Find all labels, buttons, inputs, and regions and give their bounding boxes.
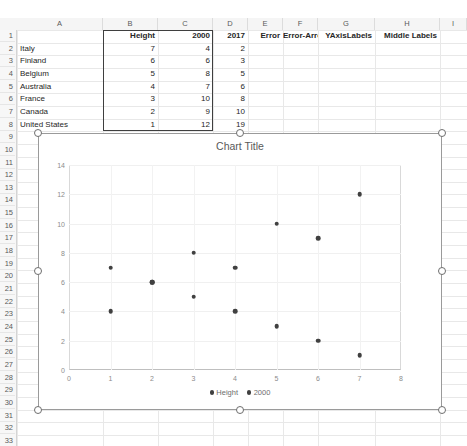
resize-handle-bottom-left[interactable] — [34, 406, 42, 414]
cell-d6-2017[interactable]: 8 — [213, 93, 248, 105]
row-header-31[interactable]: 31 — [0, 410, 15, 422]
row-header-30[interactable]: 30 — [0, 397, 15, 409]
row-header-5[interactable]: 5 — [0, 81, 15, 93]
row-header-21[interactable]: 21 — [0, 283, 15, 295]
chart-data-point[interactable] — [316, 338, 321, 343]
chart-data-point[interactable] — [191, 294, 196, 299]
row-header-22[interactable]: 22 — [0, 296, 15, 308]
chart-data-point[interactable] — [233, 309, 238, 314]
chart-title[interactable]: Chart Title — [38, 140, 442, 152]
resize-handle-top-right[interactable] — [438, 129, 446, 137]
row-header-24[interactable]: 24 — [0, 321, 15, 333]
row-header-23[interactable]: 23 — [0, 308, 15, 320]
row-header-7[interactable]: 7 — [0, 106, 15, 118]
chart-object[interactable]: Chart Title 02468101214012345678 Height2… — [38, 133, 442, 410]
cell-d4-2017[interactable]: 5 — [213, 68, 248, 80]
cell-a7-country[interactable]: Canada — [17, 106, 103, 118]
row-header-15[interactable]: 15 — [0, 207, 15, 219]
column-header-c[interactable]: C — [158, 18, 213, 30]
cell-a3-country[interactable]: Finland — [17, 55, 103, 67]
chart-data-point[interactable] — [357, 192, 362, 197]
row-header-29[interactable]: 29 — [0, 384, 15, 396]
chart-data-point[interactable] — [150, 280, 155, 285]
chart-data-point[interactable] — [274, 324, 279, 329]
cell-c4-2000[interactable]: 8 — [158, 68, 213, 80]
cell-a6-country[interactable]: France — [17, 93, 103, 105]
column-header-b[interactable]: B — [103, 18, 158, 30]
cell-d3-2017[interactable]: 3 — [213, 55, 248, 67]
cell-d8-2017[interactable]: 19 — [213, 119, 248, 131]
cell-b4-height[interactable]: 5 — [103, 68, 158, 80]
cell-c2-2000[interactable]: 4 — [158, 43, 213, 55]
cell-b8-height[interactable]: 1 — [103, 119, 158, 131]
chart-data-point[interactable] — [316, 236, 321, 241]
resize-handle-top-center[interactable] — [236, 129, 244, 137]
cell-c7-2000[interactable]: 9 — [158, 106, 213, 118]
row-header-33[interactable]: 33 — [0, 435, 15, 446]
cell-d5-2017[interactable]: 6 — [213, 81, 248, 93]
resize-handle-bottom-right[interactable] — [438, 406, 446, 414]
resize-handle-middle-right[interactable] — [438, 267, 446, 275]
row-header-18[interactable]: 18 — [0, 245, 15, 257]
row-header-1[interactable]: 1 — [0, 30, 15, 42]
row-header-6[interactable]: 6 — [0, 93, 15, 105]
resize-handle-middle-left[interactable] — [34, 267, 42, 275]
column-header-e[interactable]: E — [248, 18, 283, 30]
chart-plot-area[interactable]: 02468101214012345678 — [69, 165, 401, 370]
cell-a2-country[interactable]: Italy — [17, 43, 103, 55]
row-header-column[interactable]: 1234567891011121314151617181920212223242… — [0, 30, 17, 446]
chart-data-point[interactable] — [233, 265, 238, 270]
cell-b2-height[interactable]: 7 — [103, 43, 158, 55]
row-header-11[interactable]: 11 — [0, 157, 15, 169]
column-header-d[interactable]: D — [213, 18, 248, 30]
column-header-f[interactable]: F — [283, 18, 318, 30]
row-header-4[interactable]: 4 — [0, 68, 15, 80]
row-header-20[interactable]: 20 — [0, 270, 15, 282]
row-header-3[interactable]: 3 — [0, 55, 15, 67]
cell-b5-height[interactable]: 4 — [103, 81, 158, 93]
legend-item[interactable]: 2000 — [247, 388, 270, 397]
chart-data-point[interactable] — [108, 265, 113, 270]
row-header-9[interactable]: 9 — [0, 131, 15, 143]
spreadsheet-canvas[interactable]: ABCDEFGHI 123456789101112131415161718192… — [0, 0, 467, 446]
row-header-17[interactable]: 17 — [0, 232, 15, 244]
row-header-16[interactable]: 16 — [0, 220, 15, 232]
cell-f1-error-arrow-header[interactable]: Error-Arrow — [283, 30, 318, 42]
cell-b7-height[interactable]: 2 — [103, 106, 158, 118]
cell-d1-2017-header[interactable]: 2017 — [213, 30, 248, 42]
row-header-2[interactable]: 2 — [0, 43, 15, 55]
cell-e1-error-header[interactable]: Error — [248, 30, 283, 42]
row-header-10[interactable]: 10 — [0, 144, 15, 156]
resize-handle-top-left[interactable] — [34, 129, 42, 137]
cell-b3-height[interactable]: 6 — [103, 55, 158, 67]
cell-c6-2000[interactable]: 10 — [158, 93, 213, 105]
cell-a8-country[interactable]: United States — [17, 119, 103, 131]
row-header-28[interactable]: 28 — [0, 372, 15, 384]
chart-legend[interactable]: Height2000 — [38, 388, 442, 397]
cell-b6-height[interactable]: 3 — [103, 93, 158, 105]
chart-data-point[interactable] — [108, 309, 113, 314]
cell-d2-2017[interactable]: 2 — [213, 43, 248, 55]
row-header-27[interactable]: 27 — [0, 359, 15, 371]
cell-b1-height-header[interactable]: Height — [103, 30, 158, 42]
cell-c1-2000-header[interactable]: 2000 — [158, 30, 213, 42]
cell-d7-2017[interactable]: 10 — [213, 106, 248, 118]
cell-a5-country[interactable]: Australia — [17, 81, 103, 93]
row-header-19[interactable]: 19 — [0, 258, 15, 270]
column-header-h[interactable]: H — [375, 18, 440, 30]
cell-a4-country[interactable]: Belgium — [17, 68, 103, 80]
cell-c3-2000[interactable]: 6 — [158, 55, 213, 67]
cell-h1-middle-labels-header[interactable]: Middle Labels — [375, 30, 440, 42]
row-header-8[interactable]: 8 — [0, 119, 15, 131]
chart-data-point[interactable] — [191, 251, 196, 256]
row-header-26[interactable]: 26 — [0, 346, 15, 358]
row-header-13[interactable]: 13 — [0, 182, 15, 194]
resize-handle-bottom-center[interactable] — [236, 406, 244, 414]
row-header-14[interactable]: 14 — [0, 194, 15, 206]
cell-c5-2000[interactable]: 7 — [158, 81, 213, 93]
column-header-a[interactable]: A — [17, 18, 103, 30]
row-header-25[interactable]: 25 — [0, 334, 15, 346]
row-header-12[interactable]: 12 — [0, 169, 15, 181]
column-header-g[interactable]: G — [318, 18, 375, 30]
cell-g1-yaxislabels-header[interactable]: YAxisLabels — [318, 30, 375, 42]
